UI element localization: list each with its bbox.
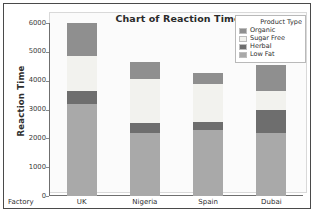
legend-swatch-icon [239, 44, 247, 50]
y-tick-mark [46, 196, 49, 197]
bar-segment[interactable] [193, 130, 223, 196]
bar-segment[interactable] [130, 62, 160, 79]
chart-frame: Chart of Reaction Time Reaction Time 600… [3, 3, 311, 209]
bar-segment[interactable] [67, 104, 97, 196]
bar-segment[interactable] [193, 122, 223, 129]
bar-segment[interactable] [67, 91, 97, 104]
y-tick-label: 6000 [12, 20, 46, 27]
y-axis-tick-labels: 6000500040003000200010000 [8, 4, 46, 214]
stacked-bar[interactable] [67, 23, 97, 196]
y-tick-label: 4000 [12, 77, 46, 84]
bar-segment[interactable] [130, 133, 160, 196]
bar-segment[interactable] [256, 91, 286, 110]
y-tick-mark [46, 110, 49, 111]
x-axis-title: Factory [8, 198, 34, 206]
x-tick-label: Spain [178, 198, 238, 206]
bar-segment[interactable] [67, 23, 97, 56]
bar-segment[interactable] [67, 56, 97, 91]
bar-segment[interactable] [256, 133, 286, 196]
legend-swatch-icon [239, 52, 247, 58]
legend-entries: OrganicSugar FreeHerbalLow Fat [239, 27, 302, 58]
legend-swatch-icon [239, 28, 247, 34]
legend-label: Low Fat [250, 51, 275, 58]
bar-segment[interactable] [130, 123, 160, 133]
y-tick-label: 5000 [12, 48, 46, 55]
x-tick-label: Nigeria [115, 198, 175, 206]
bar-segment[interactable] [193, 84, 223, 123]
bar-segment[interactable] [256, 110, 286, 133]
bar-segment[interactable] [256, 65, 286, 91]
bar-segment[interactable] [193, 73, 223, 83]
y-tick-mark [46, 23, 49, 24]
legend-title: Product Type [239, 18, 302, 26]
y-tick-label: 1000 [12, 164, 46, 171]
y-tick-mark [46, 81, 49, 82]
x-tick-label: UK [52, 198, 112, 206]
legend-entry[interactable]: Low Fat [239, 51, 302, 58]
y-tick-label: 3000 [12, 106, 46, 113]
y-tick-mark [46, 167, 49, 168]
x-tick-label: Dubai [241, 198, 301, 206]
y-tick-label: 2000 [12, 135, 46, 142]
stacked-bar[interactable] [193, 73, 223, 196]
stacked-bar[interactable] [130, 62, 160, 196]
legend: Product Type OrganicSugar FreeHerbalLow … [235, 15, 306, 63]
y-tick-mark [46, 52, 49, 53]
bar-segment[interactable] [130, 79, 160, 122]
legend-swatch-icon [239, 36, 247, 42]
stacked-bar[interactable] [256, 65, 286, 196]
y-tick-mark [46, 138, 49, 139]
